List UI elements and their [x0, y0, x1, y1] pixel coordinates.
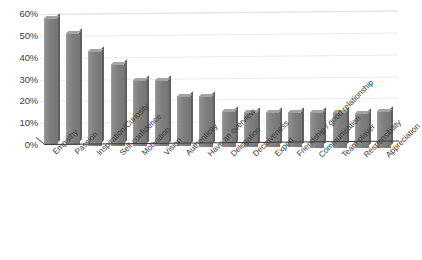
axis-origin-depth — [36, 137, 45, 146]
y-axis-tick-label: 40% — [4, 52, 38, 63]
y-axis-tick-label: 60% — [4, 8, 38, 19]
bar-top-face — [377, 109, 392, 112]
bar-top-face — [133, 78, 148, 81]
bar-top-face — [44, 16, 59, 19]
bar-top-face — [155, 78, 170, 81]
y-axis-tick-label: 10% — [4, 117, 38, 128]
bar-top-face — [199, 94, 214, 97]
bar-top-face — [355, 111, 370, 114]
bar-top-face — [288, 110, 303, 113]
y-axis-tick-label: 30% — [4, 74, 38, 85]
bar — [44, 18, 57, 145]
bar-front-face — [44, 18, 58, 145]
bar-top-face — [266, 110, 281, 113]
y-axis-tick-label: 20% — [4, 95, 38, 106]
x-axis-labels: EmpathyPassionInspiration/CuriositySelf-… — [40, 148, 405, 260]
y-axis-tick-label: 0% — [4, 139, 38, 150]
y-axis: 60%50%40%30%20%10%0% — [0, 14, 38, 150]
y-axis-tick-label: 50% — [4, 30, 38, 41]
bar-top-face — [177, 94, 192, 97]
